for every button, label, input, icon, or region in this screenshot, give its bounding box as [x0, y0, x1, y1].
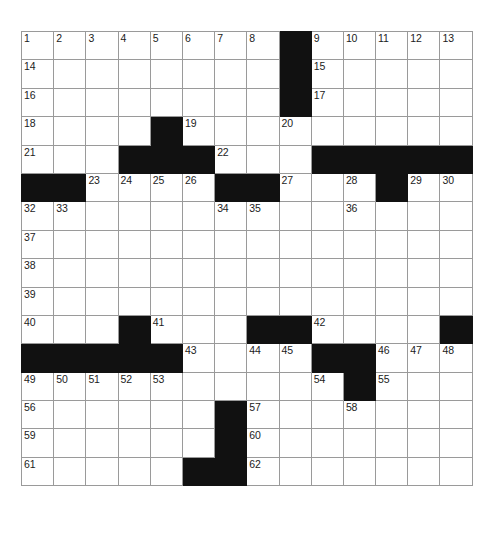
crossword-cell[interactable]: 57 — [247, 401, 279, 429]
crossword-cell[interactable]: 47 — [408, 344, 440, 372]
crossword-cell[interactable] — [376, 88, 408, 116]
crossword-cell[interactable] — [311, 117, 343, 145]
crossword-cell[interactable] — [182, 202, 214, 230]
crossword-cell[interactable] — [182, 88, 214, 116]
crossword-cell[interactable] — [182, 230, 214, 258]
crossword-cell[interactable]: 4 — [118, 32, 150, 60]
crossword-cell[interactable] — [279, 259, 311, 287]
crossword-cell[interactable]: 15 — [311, 60, 343, 88]
crossword-cell[interactable]: 39 — [22, 287, 54, 315]
crossword-cell[interactable]: 30 — [440, 173, 472, 201]
crossword-cell[interactable] — [54, 457, 86, 485]
crossword-cell[interactable] — [118, 259, 150, 287]
crossword-cell[interactable] — [86, 145, 118, 173]
crossword-cell[interactable] — [440, 202, 472, 230]
crossword-cell[interactable]: 28 — [343, 173, 375, 201]
crossword-cell[interactable] — [279, 202, 311, 230]
crossword-cell[interactable] — [247, 230, 279, 258]
crossword-cell[interactable] — [408, 457, 440, 485]
crossword-cell[interactable] — [54, 259, 86, 287]
crossword-cell[interactable] — [343, 117, 375, 145]
crossword-cell[interactable]: 42 — [311, 315, 343, 343]
crossword-cell[interactable]: 7 — [215, 32, 247, 60]
crossword-cell[interactable]: 61 — [22, 457, 54, 485]
crossword-cell[interactable] — [376, 287, 408, 315]
crossword-cell[interactable] — [86, 230, 118, 258]
crossword-cell[interactable] — [440, 88, 472, 116]
crossword-cell[interactable] — [215, 287, 247, 315]
crossword-cell[interactable] — [311, 287, 343, 315]
crossword-cell[interactable] — [86, 117, 118, 145]
crossword-cell[interactable] — [182, 259, 214, 287]
crossword-cell[interactable] — [376, 117, 408, 145]
crossword-cell[interactable]: 29 — [408, 173, 440, 201]
crossword-cell[interactable] — [343, 287, 375, 315]
crossword-cell[interactable] — [118, 287, 150, 315]
crossword-cell[interactable]: 34 — [215, 202, 247, 230]
crossword-cell[interactable] — [440, 429, 472, 457]
crossword-cell[interactable] — [376, 202, 408, 230]
crossword-cell[interactable] — [440, 230, 472, 258]
crossword-cell[interactable] — [279, 429, 311, 457]
crossword-cell[interactable] — [311, 202, 343, 230]
crossword-cell[interactable] — [247, 372, 279, 400]
crossword-cell[interactable] — [279, 230, 311, 258]
crossword-cell[interactable]: 10 — [343, 32, 375, 60]
crossword-cell[interactable] — [86, 202, 118, 230]
crossword-cell[interactable] — [118, 457, 150, 485]
crossword-cell[interactable]: 37 — [22, 230, 54, 258]
crossword-cell[interactable] — [86, 88, 118, 116]
crossword-cell[interactable] — [311, 230, 343, 258]
crossword-cell[interactable]: 13 — [440, 32, 472, 60]
crossword-cell[interactable]: 25 — [150, 173, 182, 201]
crossword-cell[interactable] — [311, 429, 343, 457]
crossword-cell[interactable]: 11 — [376, 32, 408, 60]
crossword-cell[interactable]: 22 — [215, 145, 247, 173]
crossword-cell[interactable] — [247, 117, 279, 145]
crossword-cell[interactable]: 45 — [279, 344, 311, 372]
crossword-cell[interactable]: 26 — [182, 173, 214, 201]
crossword-cell[interactable] — [54, 401, 86, 429]
crossword-cell[interactable]: 1 — [22, 32, 54, 60]
crossword-cell[interactable] — [182, 315, 214, 343]
crossword-cell[interactable] — [408, 429, 440, 457]
crossword-cell[interactable] — [215, 344, 247, 372]
crossword-cell[interactable] — [118, 88, 150, 116]
crossword-cell[interactable] — [150, 259, 182, 287]
crossword-cell[interactable]: 49 — [22, 372, 54, 400]
crossword-cell[interactable] — [376, 457, 408, 485]
crossword-cell[interactable]: 48 — [440, 344, 472, 372]
crossword-cell[interactable] — [118, 401, 150, 429]
crossword-cell[interactable] — [182, 60, 214, 88]
crossword-cell[interactable] — [247, 88, 279, 116]
crossword-cell[interactable]: 54 — [311, 372, 343, 400]
crossword-cell[interactable] — [118, 60, 150, 88]
crossword-cell[interactable]: 46 — [376, 344, 408, 372]
crossword-cell[interactable]: 62 — [247, 457, 279, 485]
crossword-cell[interactable]: 41 — [150, 315, 182, 343]
crossword-cell[interactable] — [118, 202, 150, 230]
crossword-cell[interactable] — [440, 372, 472, 400]
crossword-cell[interactable] — [279, 372, 311, 400]
crossword-cell[interactable] — [440, 117, 472, 145]
crossword-cell[interactable]: 5 — [150, 32, 182, 60]
crossword-cell[interactable]: 59 — [22, 429, 54, 457]
crossword-cell[interactable]: 17 — [311, 88, 343, 116]
crossword-cell[interactable] — [408, 117, 440, 145]
crossword-cell[interactable]: 14 — [22, 60, 54, 88]
crossword-cell[interactable] — [86, 401, 118, 429]
crossword-cell[interactable] — [311, 173, 343, 201]
crossword-cell[interactable] — [440, 60, 472, 88]
crossword-cell[interactable] — [150, 287, 182, 315]
crossword-cell[interactable] — [247, 259, 279, 287]
crossword-cell[interactable]: 9 — [311, 32, 343, 60]
crossword-cell[interactable]: 51 — [86, 372, 118, 400]
crossword-cell[interactable] — [86, 287, 118, 315]
crossword-cell[interactable] — [150, 429, 182, 457]
crossword-cell[interactable] — [376, 60, 408, 88]
crossword-cell[interactable] — [86, 60, 118, 88]
crossword-cell[interactable] — [150, 457, 182, 485]
crossword-cell[interactable] — [343, 60, 375, 88]
crossword-cell[interactable] — [311, 457, 343, 485]
crossword-cell[interactable]: 27 — [279, 173, 311, 201]
